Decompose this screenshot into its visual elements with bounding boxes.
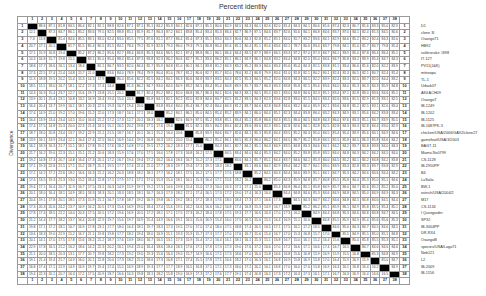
column-header: 6	[76, 278, 86, 285]
divergence-cell: 15.4	[213, 218, 223, 225]
identity-cell: 83.2	[272, 57, 282, 64]
identity-cell: 83.3	[282, 50, 292, 57]
divergence-cell: 16.7	[243, 231, 253, 238]
identity-cell: 85.1	[380, 231, 390, 238]
identity-cell: 83.3	[253, 63, 263, 70]
divergence-cell: 17.7	[106, 224, 116, 231]
identity-cell: 87.1	[194, 23, 204, 30]
divergence-cell: 22.5	[37, 70, 47, 77]
divergence-cell: 17.3	[204, 157, 214, 164]
divergence-cell: 17.2	[243, 265, 253, 272]
corner-cell	[400, 278, 410, 285]
divergence-cell: 21.0	[135, 164, 145, 171]
identity-cell: 84.1	[223, 144, 233, 151]
diagonal-cell	[164, 117, 174, 124]
divergence-cell: 15.0	[292, 238, 302, 245]
sequence-name: OsangoT1	[421, 36, 477, 43]
identity-cell: 85.8	[370, 137, 380, 144]
divergence-cell: 16.3	[331, 265, 341, 272]
identity-cell: 82.4	[360, 30, 370, 37]
identity-cell: 81.6	[360, 63, 370, 70]
identity-cell: 83.2	[184, 84, 194, 91]
identity-cell: 83.5	[282, 144, 292, 151]
identity-cell: 81.4	[184, 37, 194, 44]
divergence-cell: 14.8	[66, 70, 76, 77]
identity-cell: 84.4	[262, 110, 272, 117]
divergence-cell: 17.5	[204, 171, 214, 178]
row-header: 2	[18, 30, 28, 37]
divergence-cell: 16.2	[66, 244, 76, 251]
divergence-cell: 19.8	[96, 231, 106, 238]
identity-cell: 84.6	[370, 244, 380, 251]
divergence-cell: 15.4	[262, 231, 272, 238]
identity-cell: 81.4	[57, 37, 67, 44]
divergence-cell: 14.6	[164, 184, 174, 191]
identity-cell: 84.1	[243, 157, 253, 164]
divergence-cell: 15.4	[184, 184, 194, 191]
divergence-cell: 19.3	[233, 211, 243, 218]
identity-cell: 81.5	[106, 43, 116, 50]
column-header: 27	[282, 278, 292, 285]
divergence-cell: 22.9	[96, 218, 106, 225]
matrix-row: 718.817.718.616.113.418.481.186.783.582.…	[18, 63, 410, 70]
divergence-cell: 17.3	[204, 184, 214, 191]
divergence-cell: 17.4	[243, 271, 253, 278]
divergence-cell: 22.3	[57, 151, 67, 158]
divergence-cell: 18.2	[125, 258, 135, 265]
divergence-cell: 16.6	[272, 251, 282, 258]
divergence-cell: 17.3	[106, 204, 116, 211]
identity-cell: 82.5	[321, 124, 331, 131]
divergence-cell: 19.3	[37, 164, 47, 171]
divergence-cell: 15.2	[86, 110, 96, 117]
divergence-cell: 17.4	[125, 164, 135, 171]
identity-cell: 84.3	[390, 191, 400, 198]
divergence-cell: 17.6	[106, 144, 116, 151]
identity-cell: 86.0	[253, 137, 263, 144]
identity-cell: 86.7	[106, 63, 116, 70]
identity-cell: 85.1	[194, 57, 204, 64]
divergence-cell: 17.2	[106, 157, 116, 164]
sequence-name: rattlesnake #698	[421, 50, 477, 57]
divergence-cell: 14.9	[262, 204, 272, 211]
matrix-row: 517.115.916.819.485.287.286.285.682.788.…	[18, 50, 410, 57]
column-header: 6	[76, 17, 86, 24]
divergence-cell: 16.8	[253, 271, 263, 278]
divergence-cell: 16.5	[253, 224, 263, 231]
identity-cell: 83.8	[213, 117, 223, 124]
divergence-cell: 16.2	[292, 211, 302, 218]
identity-cell: 81.9	[145, 43, 155, 50]
identity-cell: 85.3	[311, 191, 321, 198]
divergence-cell: 17.3	[115, 258, 125, 265]
matrix-row: 1617.417.514.815.320.022.321.424.515.116…	[18, 124, 410, 131]
diagonal-cell	[194, 137, 204, 144]
divergence-cell: 18.1	[76, 104, 86, 111]
divergence-cell: 15.6	[76, 90, 86, 97]
divergence-cell: 16.5	[204, 191, 214, 198]
identity-cell: 86.1	[213, 50, 223, 57]
identity-cell: 82.8	[253, 37, 263, 44]
row-header: 27	[18, 197, 28, 204]
identity-cell: 84.3	[213, 144, 223, 151]
identity-cell: 83.9	[302, 171, 312, 178]
identity-cell: 85.3	[262, 151, 272, 158]
identity-cell: 85.6	[370, 218, 380, 225]
identity-cell: 84.8	[360, 211, 370, 218]
divergence-cell: 21.2	[57, 244, 67, 251]
divergence-cell: 19.0	[174, 251, 184, 258]
divergence-cell: 17.6	[213, 197, 223, 204]
identity-cell: 83.9	[204, 77, 214, 84]
divergence-cell: 18.0	[37, 130, 47, 137]
identity-cell: 84.8	[370, 157, 380, 164]
divergence-cell: 17.7	[243, 211, 253, 218]
divergence-cell: 16.6	[223, 258, 233, 265]
identity-cell: 86.8	[311, 30, 321, 37]
divergence-cell: 16.1	[262, 258, 272, 265]
divergence-cell: 16.7	[282, 238, 292, 245]
diagonal-cell	[125, 90, 135, 97]
identity-cell: 84.1	[302, 157, 312, 164]
row-number: 38	[400, 271, 410, 278]
identity-cell: 81.5	[351, 97, 361, 104]
identity-cell: 86.4	[370, 50, 380, 57]
identity-cell: 87.2	[292, 50, 302, 57]
identity-cell: 84.3	[223, 37, 233, 44]
